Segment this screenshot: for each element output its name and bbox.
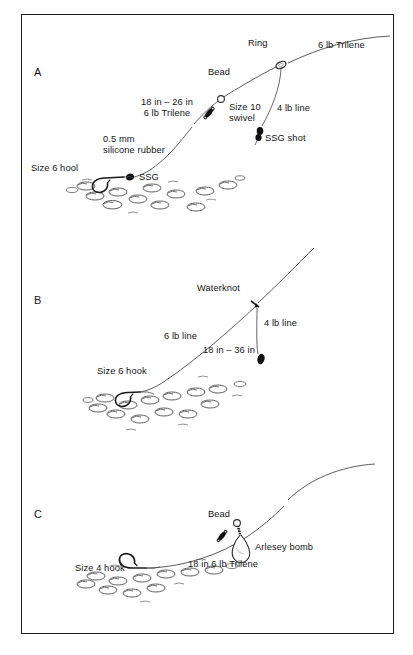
label-a-silicone: 0.5 mm silicone rubber [103,134,165,157]
label-b-dropper-line: 4 lb line [264,318,297,329]
label-a-shot: SSG shot [265,133,306,144]
label-c-hook: Size 4 hook [75,563,125,574]
panel-letter-b: B [34,294,42,306]
panel-letter-a: A [34,66,42,78]
label-c-bomb: Arlesey bomb [255,542,313,553]
label-a-ring: Ring [248,38,268,49]
label-b-hook-length: 18 in – 36 in [203,345,255,356]
label-a-bead: Bead [208,67,230,78]
label-b-main-line: 6 lb line [164,331,197,342]
label-a-dropper-line: 4 lb line [277,103,310,114]
fishing-rig-figure: A B C 6 lb Trilene Ring Bead 18 in – 26 … [0,0,413,655]
panel-letter-c: C [34,508,42,520]
label-a-main-line: 6 lb Trilene [318,40,365,51]
label-a-hook-link: 18 in – 26 in 6 lb Trilene [141,97,193,120]
label-a-swivel: Size 10 swivel [229,102,261,125]
label-b-knot: Waterknot [197,283,240,294]
figure-frame [21,14,394,634]
label-a-hook-shot: SSG [139,172,159,183]
label-a-hook: Size 6 hool [31,163,78,174]
label-c-hook-link: 18 in 6 lb Trilene [188,559,258,570]
label-b-hook: Size 6 hook [97,366,147,377]
label-c-bead: Bead [208,509,230,520]
